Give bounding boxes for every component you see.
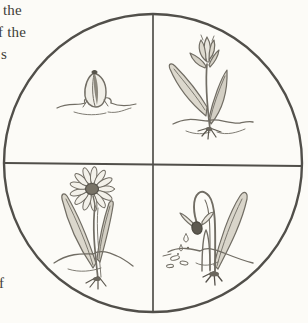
budding-tulip-icon [169, 35, 253, 139]
quadrant-circle [4, 14, 302, 312]
blooming-daisy-icon [54, 166, 133, 289]
scanned-book-figure: the f the s f [0, 0, 308, 323]
life-cycle-diagram [0, 0, 308, 323]
sprouting-bud-icon [57, 71, 136, 115]
wilting-flower-icon [163, 192, 253, 285]
